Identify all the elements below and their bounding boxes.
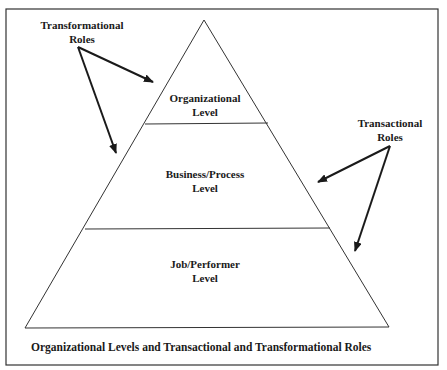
business-line1: Business/Process: [150, 167, 260, 181]
divider-org-business: [145, 123, 268, 124]
job-line2: Level: [155, 271, 255, 285]
transformational-line1: Transformational: [27, 18, 137, 32]
business-line2: Level: [150, 181, 260, 195]
divider-business-job: [85, 228, 330, 229]
label-business-process-level: Business/Process Level: [150, 167, 260, 195]
label-job-performer-level: Job/Performer Level: [155, 257, 255, 285]
transactional-line2: Roles: [350, 130, 430, 144]
diagram-caption: Organizational Levels and Transactional …: [31, 341, 371, 353]
transactional-arrows: [318, 146, 390, 251]
label-organizational-level: Organizational Level: [160, 91, 250, 119]
org-line1: Organizational: [160, 91, 250, 105]
transformational-arrows: [78, 47, 153, 153]
org-line2: Level: [160, 105, 250, 119]
job-line1: Job/Performer: [155, 257, 255, 271]
transformational-line2: Roles: [27, 32, 137, 46]
label-transformational-roles: Transformational Roles: [27, 18, 137, 46]
label-transactional-roles: Transactional Roles: [350, 116, 430, 144]
transactional-line1: Transactional: [350, 116, 430, 130]
